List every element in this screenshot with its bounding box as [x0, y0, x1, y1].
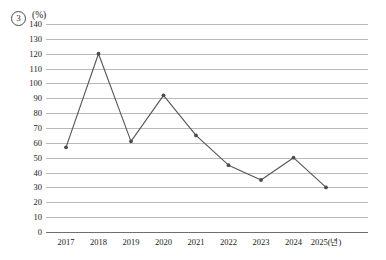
x-axis-tick-label: 2017	[58, 237, 75, 247]
y-axis-tick-label: 100	[29, 79, 42, 88]
data-point-marker: 2025: 30	[324, 186, 328, 190]
x-axis-tick-label: 2025(년)	[311, 237, 342, 247]
x-axis-line	[46, 232, 368, 233]
data-point-marker: 2024: 50	[292, 156, 296, 160]
x-axis-tick-label: 2024	[285, 237, 302, 247]
y-axis-tick-label: 110	[30, 64, 42, 73]
x-axis-tick-label: 2020	[155, 237, 172, 247]
series-line	[66, 54, 326, 188]
y-axis-tick-label: 70	[34, 124, 43, 133]
y-axis-tick-label: 10	[34, 213, 43, 222]
data-point-marker: 2018: 120	[97, 52, 101, 56]
y-axis-tick-label: 40	[34, 168, 43, 177]
x-axis-tick-label: 2018	[90, 237, 107, 247]
chart-figure: 3 (%) 1401301201101009080706050403020100…	[0, 0, 386, 260]
line-series-svg: 2017: 572018: 1202019: 612020: 922021: 6…	[46, 24, 368, 232]
x-axis-tick-label: 2022	[220, 237, 237, 247]
y-axis-tick-label: 30	[34, 183, 43, 192]
data-point-marker: 2023: 35	[259, 178, 263, 182]
data-point-marker: 2022: 45	[227, 163, 231, 167]
y-axis-tick-label: 120	[29, 49, 42, 58]
x-axis-tick-label: 2019	[123, 237, 140, 247]
plot-area: 1401301201101009080706050403020100 2017:…	[46, 24, 368, 232]
data-point-marker: 2019: 61	[129, 139, 133, 143]
y-axis-tick-label: 20	[34, 198, 43, 207]
y-axis-tick-label: 50	[34, 153, 43, 162]
x-axis-tick-label: 2023	[253, 237, 270, 247]
y-axis-tick-label: 140	[29, 20, 42, 29]
series-group: 2017: 572018: 1202019: 612020: 922021: 6…	[46, 24, 368, 232]
data-point-marker: 2021: 65	[194, 134, 198, 138]
y-axis-tick-label: 80	[34, 109, 43, 118]
y-axis-tick-label: 0	[38, 228, 42, 237]
x-axis-tick-label: 2021	[188, 237, 205, 247]
data-point-marker: 2017: 57	[64, 145, 68, 149]
y-axis-tick-label: 130	[29, 34, 42, 43]
y-axis-tick-label: 90	[34, 94, 43, 103]
figure-index-badge: 3	[11, 11, 26, 26]
y-axis-tick-label: 60	[34, 138, 43, 147]
data-point-marker: 2020: 92	[162, 93, 166, 97]
